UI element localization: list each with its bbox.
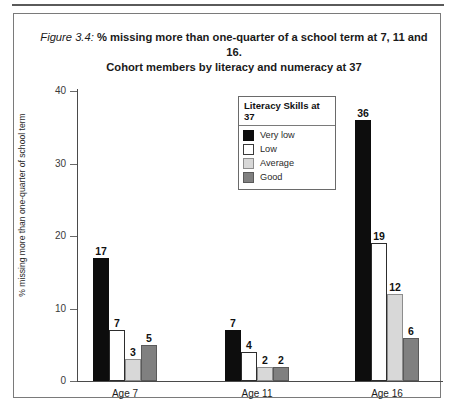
bar-value-label: 2: [278, 355, 284, 366]
bar-age-16-good: 6: [403, 338, 419, 382]
bar-value-label: 19: [373, 231, 385, 242]
y-axis-tick-label: 0: [46, 375, 66, 386]
y-axis-tick-label: 30: [46, 158, 66, 169]
bar-age-11-good: 2: [273, 367, 289, 382]
bar-age-11-very-low: 7: [225, 330, 241, 381]
y-axis-tick: [70, 236, 77, 237]
y-axis-tick: [70, 91, 77, 92]
legend-label: Good: [260, 172, 282, 183]
legend-swatch-icon: [243, 130, 254, 141]
bar-value-label: 12: [389, 282, 401, 293]
bar-value-label: 6: [408, 326, 414, 337]
bar-age-11-average: 2: [257, 367, 273, 382]
bar-age-16-very-low: 36: [355, 120, 371, 381]
bar-value-label: 3: [130, 347, 136, 358]
legend-title: Literacy Skills at 37: [239, 97, 335, 126]
y-axis-tick-label: 10: [46, 303, 66, 314]
y-axis-tick-label: 40: [46, 85, 66, 96]
bar-value-label: 7: [230, 318, 236, 329]
bar-value-label: 7: [114, 318, 120, 329]
legend-label: Average: [260, 158, 294, 169]
legend-swatch-icon: [243, 158, 254, 169]
figure-page: Figure 3.4: % missing more than one-quar…: [0, 0, 456, 413]
bar-age-7-average: 3: [125, 359, 141, 381]
y-axis-tick: [70, 309, 77, 310]
chart-legend: Literacy Skills at 37 Very lowLowAverage…: [238, 96, 336, 190]
legend-row-average: Average: [243, 157, 331, 170]
figure-number: Figure 3.4:: [40, 31, 93, 43]
legend-swatch-icon: [243, 144, 254, 155]
figure-title: Figure 3.4: % missing more than one-quar…: [32, 30, 436, 75]
bar-age-7-low: 7: [109, 330, 125, 381]
y-axis-tick: [70, 164, 77, 165]
legend-items: Very lowLowAverageGood: [239, 126, 335, 189]
x-axis-label-age-7: Age 7: [79, 388, 171, 399]
bar-age-7-very-low: 17: [93, 258, 109, 381]
y-axis-tick-label: 20: [46, 230, 66, 241]
figure-title-line1: % missing more than one-quarter of a sch…: [94, 31, 428, 58]
bar-age-16-low: 19: [371, 243, 387, 381]
bar-value-label: 36: [357, 108, 369, 119]
legend-label: Very low: [260, 130, 295, 141]
bar-age-16-average: 12: [387, 294, 403, 381]
bar-value-label: 4: [246, 340, 252, 351]
bar-value-label: 2: [262, 355, 268, 366]
legend-swatch-icon: [243, 172, 254, 183]
x-axis-line: [77, 381, 443, 382]
bar-age-11-low: 4: [241, 352, 257, 381]
figure-frame: Figure 3.4: % missing more than one-quar…: [13, 13, 441, 398]
y-axis-title: % missing more than one-quarter of schoo…: [17, 25, 27, 385]
legend-row-low: Low: [243, 143, 331, 156]
x-axis-label-age-16: Age 16: [341, 388, 433, 399]
legend-row-very-low: Very low: [243, 129, 331, 142]
bar-age-7-good: 5: [141, 345, 157, 381]
legend-label: Low: [260, 144, 277, 155]
top-divider-rule: [12, 4, 444, 6]
x-axis-label-age-11: Age 11: [211, 388, 303, 399]
bar-value-label: 17: [95, 246, 107, 257]
figure-title-line2: Cohort members by literacy and numeracy …: [106, 61, 362, 73]
y-axis-tick: [70, 381, 77, 382]
bar-value-label: 5: [146, 333, 152, 344]
legend-row-good: Good: [243, 171, 331, 184]
